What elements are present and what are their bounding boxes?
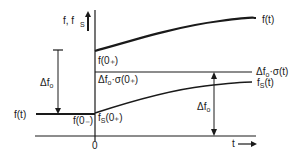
- right-delta-sub: o: [206, 106, 210, 113]
- left-delta-sub: o: [49, 82, 53, 89]
- fs-label-tail: (t): [264, 77, 273, 88]
- right-delta-main: Δf: [197, 101, 207, 112]
- f-upper-curve: [95, 18, 256, 51]
- f-upper-label: f(t): [262, 14, 274, 25]
- fs0-plus-label: fS(0₊): [98, 112, 123, 124]
- left-delta-label: Δfo: [40, 77, 53, 89]
- step-at-zero-label: Δfo·σ(0₊): [98, 74, 138, 86]
- step-label-main: Δf: [256, 66, 266, 77]
- step-label-tail: ·σ(t): [269, 66, 288, 77]
- right-delta-label: Δfo: [197, 101, 210, 113]
- right-delta-arrow-up-icon: [211, 72, 217, 79]
- y-axis-label-sub: S: [80, 21, 85, 28]
- step-at-zero-tail: ·σ(0₊): [111, 74, 138, 85]
- f0-plus-label: f(0₊): [98, 55, 118, 66]
- fs0-tail: (0₊): [105, 112, 122, 123]
- step-response-diagram: f, f S 0 t f(t) f(0₋) f(t) f(0₊) Δfo·σ(t…: [0, 0, 305, 152]
- fs-label: fS(t): [257, 77, 274, 89]
- y-axis-label: f, f: [63, 15, 74, 26]
- f-before-label: f(t): [14, 109, 26, 120]
- f0-minus-label: f(0₋): [73, 115, 93, 126]
- fs-curve: [95, 82, 252, 113]
- left-delta-main: Δf: [40, 77, 50, 88]
- time-axis-label: t: [232, 138, 235, 149]
- origin-label: 0: [92, 140, 98, 151]
- step-at-zero-main: Δf: [98, 74, 108, 85]
- right-delta-arrow-down-icon: [211, 129, 217, 136]
